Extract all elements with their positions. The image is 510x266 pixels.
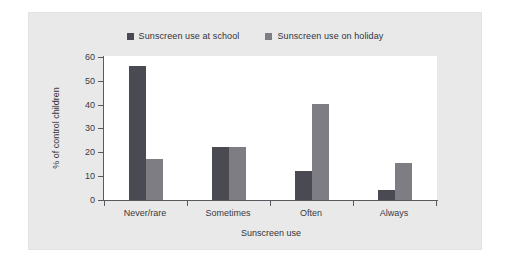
chart-figure: Sunscreen use at school Sunscreen use on… xyxy=(0,0,510,266)
legend-entry-on-holiday: Sunscreen use on holiday xyxy=(265,31,383,41)
y-tick-label-60: 60 xyxy=(74,52,95,62)
y-tick-10 xyxy=(98,176,103,177)
y-tick-40 xyxy=(98,105,103,106)
y-tick-label-40: 40 xyxy=(74,100,95,110)
x-tick-boundary-0 xyxy=(104,201,105,206)
bar-often-on-holiday xyxy=(312,104,329,200)
legend-swatch-at-school xyxy=(127,33,134,40)
x-tick-label-sometimes: Sometimes xyxy=(205,208,250,218)
bar-sometimes-on-holiday xyxy=(229,147,246,200)
y-tick-label-30: 30 xyxy=(74,123,95,133)
y-tick-50 xyxy=(98,81,103,82)
y-tick-20 xyxy=(98,152,103,153)
bar-always-on-holiday xyxy=(395,163,412,200)
bar-never-rare-on-holiday xyxy=(146,159,163,200)
legend-swatch-on-holiday xyxy=(265,33,272,40)
x-axis-title: Sunscreen use xyxy=(241,228,301,238)
legend-label-on-holiday: Sunscreen use on holiday xyxy=(277,31,383,41)
y-axis-title: % of control children xyxy=(51,87,61,169)
x-tick-boundary-3 xyxy=(353,201,354,206)
y-tick-30 xyxy=(98,128,103,129)
x-tick-label-never-rare: Never/rare xyxy=(124,208,167,218)
x-tick-label-often: Often xyxy=(300,208,322,218)
y-tick-label-50: 50 xyxy=(74,76,95,86)
bar-always-at-school xyxy=(378,190,395,200)
legend-label-at-school: Sunscreen use at school xyxy=(139,31,240,41)
chart-legend: Sunscreen use at school Sunscreen use on… xyxy=(29,28,481,44)
y-tick-60 xyxy=(98,57,103,58)
bar-sometimes-at-school xyxy=(212,147,229,200)
x-tick-boundary-2 xyxy=(270,201,271,206)
y-tick-label-20: 20 xyxy=(74,147,95,157)
x-tick-label-always: Always xyxy=(380,208,409,218)
y-tick-label-10: 10 xyxy=(74,171,95,181)
legend-entry-at-school: Sunscreen use at school xyxy=(127,31,240,41)
bar-often-at-school xyxy=(295,171,312,200)
y-tick-0 xyxy=(98,200,103,201)
x-tick-boundary-4 xyxy=(436,201,437,206)
y-tick-label-0: 0 xyxy=(74,195,95,205)
bar-never-rare-at-school xyxy=(129,66,146,200)
x-tick-boundary-1 xyxy=(187,201,188,206)
bars-layer xyxy=(104,56,437,200)
